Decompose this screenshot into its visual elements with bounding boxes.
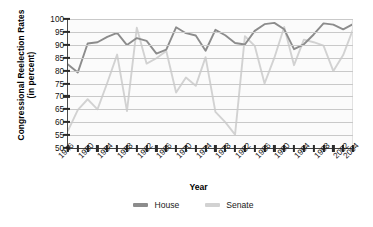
legend-item-house: House (133, 200, 179, 210)
y-axis-tick (63, 82, 70, 84)
gridline (68, 71, 353, 72)
legend-item-senate: Senate (205, 200, 253, 210)
y-axis-tick-label: 80 (40, 66, 64, 75)
legend-swatch-house (133, 203, 148, 208)
chart-figure: Congressional Reelection Rates (in perce… (0, 0, 373, 227)
y-axis-tick-label: 65 (40, 105, 64, 114)
gridline (68, 96, 353, 97)
y-axis-tick (63, 44, 70, 46)
gridline (68, 19, 353, 20)
y-axis-tick-label: 90 (40, 40, 64, 49)
y-axis-title: Congressional Reelection Rates (in perce… (13, 0, 39, 153)
gridline (68, 45, 353, 46)
y-axis-tick-label: 100 (40, 15, 64, 24)
series-line-senate (68, 27, 353, 135)
legend-swatch-senate (205, 203, 220, 208)
x-axis-title: Year (0, 182, 373, 192)
plot-area (68, 19, 353, 148)
y-axis-tick-label: 95 (40, 27, 64, 36)
y-axis-tick-label: 55 (40, 131, 64, 140)
y-axis-tick-label: 85 (40, 53, 64, 62)
chart-legend: House Senate (0, 200, 373, 210)
y-axis-tick (63, 95, 70, 97)
y-axis-tick (63, 108, 70, 110)
legend-label-senate: Senate (226, 200, 253, 210)
series-line-house (68, 23, 353, 73)
y-axis-title-line2: (in percent) (26, 52, 37, 99)
y-axis-tick (63, 121, 70, 123)
y-axis-tick (63, 31, 70, 33)
gridline (68, 58, 353, 59)
y-axis-tick (63, 18, 70, 20)
legend-label-house: House (154, 200, 179, 210)
y-axis-tick-labels: 50556065707580859095100 (38, 19, 64, 149)
y-axis-tick (63, 134, 70, 136)
y-axis-tick (63, 57, 70, 59)
gridline (68, 84, 353, 85)
gridline (68, 135, 353, 136)
y-axis-tick-label: 60 (40, 118, 64, 127)
y-axis-tick (63, 70, 70, 72)
gridline (68, 109, 353, 110)
y-axis-title-line1: Congressional Reelection Rates (15, 10, 26, 141)
gridline (68, 122, 353, 123)
gridline (68, 32, 353, 33)
y-axis-tick-label: 75 (40, 79, 64, 88)
y-axis-tick-label: 70 (40, 92, 64, 101)
